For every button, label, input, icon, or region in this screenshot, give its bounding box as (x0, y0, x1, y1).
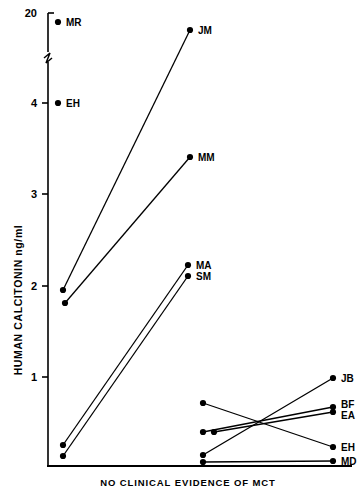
data-point-ea-stim (330, 409, 336, 415)
point-label-eh-top: EH (66, 98, 80, 109)
point-label-sm: SM (196, 271, 211, 282)
point-label-mr: MR (66, 17, 82, 28)
data-point-mm-stim (187, 154, 193, 160)
point-label-jb: JB (341, 373, 354, 384)
point-label-eh-low: EH (341, 442, 355, 453)
data-point-eh-stim (330, 444, 336, 450)
y-tick-label-1: 1 (31, 371, 37, 383)
y-tick-label-3: 3 (31, 188, 37, 200)
data-point-eh-top (55, 100, 61, 106)
data-point-mr (55, 19, 61, 25)
y-tick-label-4: 4 (31, 97, 38, 109)
chart-svg: 20 4 3 2 1 HUMAN CALCITONIN ng/ml NO CLI… (0, 0, 359, 497)
data-point-jb-basal (200, 452, 206, 458)
point-label-md: MD (341, 456, 357, 467)
data-point-jb-stim (330, 375, 336, 381)
data-point-jm-stim (187, 27, 193, 33)
calcitonin-chart: 20 4 3 2 1 HUMAN CALCITONIN ng/ml NO CLI… (0, 0, 359, 497)
point-label-jm: JM (198, 25, 212, 36)
y-axis-title: HUMAN CALCITONIN ng/ml (12, 225, 24, 376)
data-point-ma-stim (185, 262, 191, 268)
x-axis-title: NO CLINICAL EVIDENCE OF MCT (100, 477, 276, 488)
data-point-sm-basal (60, 453, 66, 459)
point-label-ma: MA (196, 260, 212, 271)
y-tick-label-20: 20 (25, 7, 37, 19)
point-label-mm: MM (198, 152, 215, 163)
y-tick-label-2: 2 (31, 280, 37, 292)
data-point-mm-basal (62, 300, 68, 306)
data-point-md-stim (330, 458, 336, 464)
data-point-jm-basal (60, 287, 66, 293)
data-point-md-basal (200, 459, 206, 465)
data-point-bf-basal (200, 429, 206, 435)
data-point-ma-basal (60, 442, 66, 448)
point-label-ea: EA (341, 410, 355, 421)
point-label-bf: BF (341, 399, 354, 410)
chart-background (0, 0, 359, 497)
data-point-ea-basal (211, 429, 217, 435)
data-point-eh-basal (200, 400, 206, 406)
data-point-sm-stim (185, 273, 191, 279)
